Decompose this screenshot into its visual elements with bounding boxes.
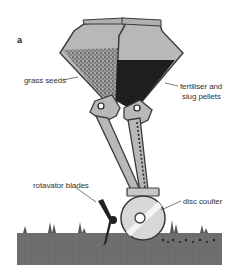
grass-seed-hopper [60, 20, 125, 104]
panel-letter: a [17, 35, 22, 45]
fertiliser-meter-icon [134, 105, 140, 111]
label-disc-coulter: disc coulter [183, 197, 222, 206]
fertiliser-hopper [116, 20, 183, 107]
diagram-artwork [0, 0, 235, 279]
seed-drill-diagram: a [0, 0, 235, 279]
soil [17, 233, 222, 265]
disc-coulter [121, 196, 165, 240]
label-grass-seeds: grass seeds [24, 76, 66, 85]
label-fertiliser-line1: fertiliser and [180, 82, 222, 91]
label-fertiliser-line2: slug pellets [182, 92, 221, 101]
label-rotavator-blades: rotavator blades [33, 181, 89, 190]
seed-meter-icon [98, 103, 104, 109]
